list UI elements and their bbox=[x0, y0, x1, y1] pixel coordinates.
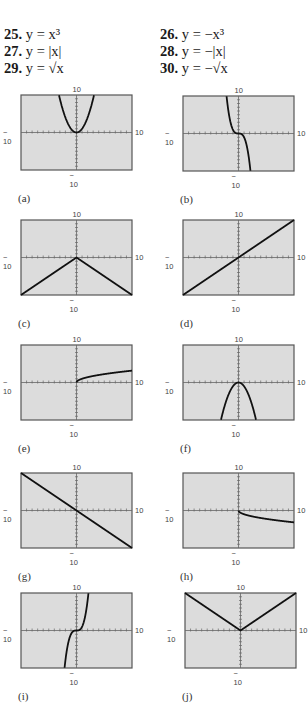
ymin-label: − 10 bbox=[234, 669, 242, 687]
xmin-label: − 10 bbox=[167, 626, 175, 644]
xmax-label: 10 bbox=[299, 626, 307, 635]
panel-caption: (j) bbox=[182, 690, 192, 702]
ymax-label: 10 bbox=[237, 583, 245, 592]
graph-screen bbox=[0, 0, 308, 721]
